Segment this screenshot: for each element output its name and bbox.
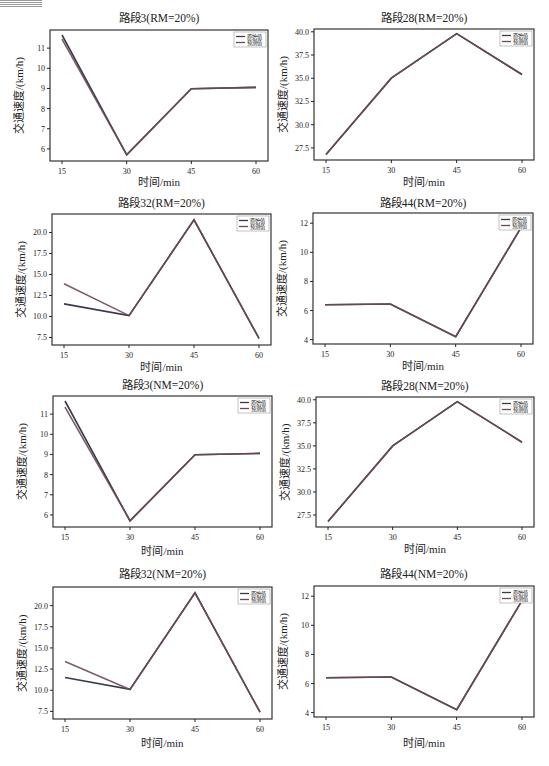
- x-tick-label: 60: [518, 533, 526, 542]
- y-tick-label: 12: [301, 592, 309, 601]
- x-tick-label: 15: [61, 533, 69, 542]
- y-tick-label: 7.5: [37, 333, 47, 342]
- y-tick-label: 27.5: [297, 511, 311, 520]
- line-chart: 路段44(RM=20%)153045604681012时间/min交通速度/(k…: [275, 196, 533, 372]
- x-tick-label: 15: [58, 167, 66, 176]
- plot-frame: [314, 586, 534, 717]
- y-tick-label: 17.5: [33, 249, 47, 258]
- chart-title: 路段32(NM=20%): [119, 567, 206, 581]
- chart-grid: 路段3(RM=20%)1530456067891011时间/min交通速度/(k…: [0, 0, 549, 766]
- y-axis-label: 交通速度/(km/h): [278, 423, 292, 500]
- chart-legend: 原始值预测值: [500, 399, 532, 414]
- y-tick-label: 9: [41, 84, 45, 93]
- chart-title: 路段3(NM=20%): [122, 378, 204, 392]
- x-tick-label: 60: [252, 167, 260, 176]
- y-tick-label: 7: [41, 125, 45, 134]
- plot-frame: [314, 29, 534, 160]
- y-tick-label: 12.5: [34, 665, 48, 674]
- x-tick-label: 45: [452, 350, 460, 359]
- legend-label: 预测值: [251, 596, 266, 604]
- x-tick-label: 30: [123, 167, 131, 176]
- x-axis-label: 时间/min: [402, 360, 445, 372]
- x-tick-label: 30: [387, 723, 395, 732]
- y-tick-label: 32.5: [297, 465, 311, 474]
- y-tick-label: 40.0: [295, 28, 309, 37]
- x-tick-label: 15: [321, 350, 329, 359]
- y-tick-label: 6: [304, 307, 308, 316]
- x-tick-label: 45: [191, 533, 199, 542]
- x-tick-label: 15: [324, 533, 332, 542]
- chart-legend: 原始值预测值: [238, 589, 270, 604]
- x-tick-label: 45: [453, 723, 461, 732]
- y-axis-label: 交通速度/(km/h): [12, 57, 26, 134]
- y-tick-label: 4: [305, 709, 309, 718]
- x-tick-label: 45: [190, 351, 198, 360]
- y-tick-label: 7.5: [38, 707, 48, 716]
- series-original-line: [64, 220, 259, 338]
- x-tick-label: 30: [386, 350, 394, 359]
- series-predicted-line: [325, 228, 521, 337]
- y-tick-label: 11: [37, 44, 45, 53]
- y-tick-label: 9: [44, 450, 48, 459]
- y-tick-label: 17.5: [34, 623, 48, 632]
- x-tick-label: 45: [187, 167, 195, 176]
- x-tick-label: 45: [453, 533, 461, 542]
- x-axis-label: 时间/min: [141, 545, 184, 557]
- y-tick-label: 10: [301, 621, 309, 630]
- y-tick-label: 10: [40, 430, 48, 439]
- plot-frame: [53, 587, 272, 719]
- y-tick-label: 12: [300, 219, 308, 228]
- y-tick-label: 30.0: [297, 488, 311, 497]
- chart-legend: 原始值预测值: [499, 215, 531, 230]
- y-axis-label: 交通速度/(km/h): [14, 241, 28, 318]
- y-tick-label: 37.5: [295, 51, 309, 60]
- chart-legend: 原始值预测值: [500, 31, 532, 46]
- series-original-line: [65, 401, 260, 521]
- chart-legend: 原始值预测值: [500, 588, 532, 603]
- y-tick-label: 20.0: [33, 228, 47, 237]
- series-predicted-line: [326, 34, 522, 155]
- y-tick-label: 8: [44, 471, 48, 480]
- y-tick-label: 15.0: [34, 644, 48, 653]
- chart-legend: 原始值预测值: [238, 398, 270, 413]
- x-tick-label: 30: [125, 351, 133, 360]
- line-chart: 路段44(NM=20%)153045604681012时间/min交通速度/(k…: [276, 567, 534, 749]
- y-axis-label: 交通速度/(km/h): [276, 613, 290, 690]
- x-tick-label: 15: [322, 166, 330, 175]
- y-tick-label: 40.0: [297, 396, 311, 405]
- chart-title: 路段32(RM=20%): [118, 196, 205, 210]
- plot-frame: [50, 30, 268, 161]
- legend-label: 预测值: [513, 595, 528, 603]
- y-tick-label: 8: [41, 105, 45, 114]
- series-predicted-line: [62, 39, 256, 155]
- y-tick-label: 27.5: [295, 144, 309, 153]
- series-predicted-line: [64, 220, 259, 338]
- x-tick-label: 45: [191, 725, 199, 734]
- x-tick-label: 15: [60, 351, 68, 360]
- legend-label: 预测值: [513, 406, 528, 414]
- chart-title: 路段44(NM=20%): [380, 567, 467, 581]
- chart-title: 路段3(RM=20%): [119, 11, 200, 25]
- plot-frame: [313, 213, 533, 344]
- chart-title: 路段44(RM=20%): [380, 196, 467, 210]
- x-tick-label: 30: [126, 533, 134, 542]
- y-tick-label: 6: [41, 145, 45, 154]
- series-original-line: [65, 593, 260, 712]
- y-tick-label: 7: [44, 491, 48, 500]
- chart-legend: 原始值预测值: [237, 216, 269, 231]
- y-tick-label: 15.0: [33, 270, 47, 279]
- y-tick-label: 32.5: [295, 97, 309, 106]
- y-tick-label: 30.0: [295, 121, 309, 130]
- plot-frame: [53, 396, 272, 527]
- chart-legend: 原始值预测值: [234, 32, 266, 47]
- x-tick-label: 60: [517, 350, 525, 359]
- line-chart: 路段28(NM=20%)1530456027.530.032.535.037.5…: [278, 379, 534, 555]
- series-predicted-line: [328, 402, 522, 522]
- chart-title: 路段28(NM=20%): [381, 379, 468, 393]
- line-chart: 路段3(RM=20%)1530456067891011时间/min交通速度/(k…: [12, 11, 268, 188]
- x-tick-label: 30: [387, 166, 395, 175]
- y-tick-label: 6: [305, 680, 309, 689]
- x-tick-label: 60: [518, 166, 526, 175]
- series-predicted-line: [326, 601, 522, 710]
- x-tick-label: 30: [389, 533, 397, 542]
